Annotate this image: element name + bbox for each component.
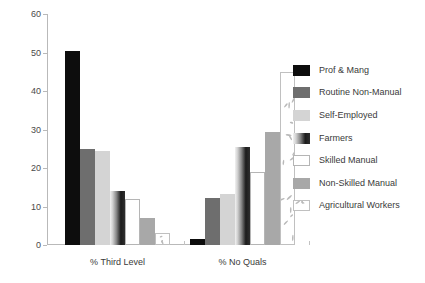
y-axis-line: [47, 14, 48, 245]
gradient-swatch: [293, 133, 310, 144]
legend-item: Routine Non-Manual: [293, 82, 402, 105]
y-tick-mark: [43, 168, 47, 169]
y-tick-label: 0: [36, 241, 41, 250]
lightgray-swatch: [293, 110, 310, 121]
y-tick-label: 30: [31, 125, 41, 134]
bar: [65, 51, 80, 245]
bar-chart: 0102030405060 % Third Level% No Quals Pr…: [0, 0, 425, 283]
black-swatch: [293, 65, 310, 76]
y-tick-label: 10: [31, 202, 41, 211]
legend-label: Agricultural Workers: [319, 201, 400, 210]
legend-label: Non-Skilled Manual: [319, 179, 397, 188]
bar: [265, 132, 280, 245]
bar: [235, 147, 250, 245]
midgray-swatch: [293, 87, 310, 98]
y-tick-label: 20: [31, 164, 41, 173]
y-tick-label: 50: [31, 48, 41, 57]
legend-item: Agricultural Workers: [293, 195, 402, 218]
y-tick-mark: [43, 53, 47, 54]
bar: [155, 233, 170, 245]
legend-item: Skilled Manual: [293, 149, 402, 172]
bar: [95, 151, 110, 245]
x-axis-category-label: % Third Level: [78, 258, 158, 267]
white-swatch: [293, 155, 310, 166]
bar: [220, 194, 235, 245]
y-tick-mark: [43, 207, 47, 208]
bar: [205, 198, 220, 245]
y-tick-mark: [43, 245, 47, 246]
chart-legend: Prof & MangRoutine Non-ManualSelf-Employ…: [293, 59, 402, 217]
bar: [190, 239, 205, 245]
legend-item: Self-Employed: [293, 104, 402, 127]
legend-item: Prof & Mang: [293, 59, 402, 82]
legend-item: Farmers: [293, 127, 402, 150]
bar: [250, 172, 265, 245]
bar-group: [190, 14, 295, 245]
legend-label: Routine Non-Manual: [319, 88, 402, 97]
gray-swatch: [293, 178, 310, 189]
legend-item: Non-Skilled Manual: [293, 172, 402, 195]
plot-area: 0102030405060: [47, 14, 285, 245]
y-tick-mark: [43, 130, 47, 131]
bar: [80, 149, 95, 245]
y-tick-label: 60: [31, 10, 41, 19]
y-tick-mark: [43, 91, 47, 92]
x-axis-separator: [184, 241, 185, 245]
x-axis-separator: [309, 241, 310, 245]
x-axis-category-label: % No Quals: [203, 258, 283, 267]
y-tick-label: 40: [31, 87, 41, 96]
bar: [125, 199, 140, 245]
bar: [140, 218, 155, 245]
y-tick-mark: [43, 14, 47, 15]
legend-label: Farmers: [319, 134, 353, 143]
legend-label: Skilled Manual: [319, 156, 378, 165]
speckle-swatch: [293, 200, 310, 211]
legend-label: Prof & Mang: [319, 66, 369, 75]
legend-label: Self-Employed: [319, 111, 378, 120]
bar: [110, 191, 125, 245]
bar-group: [65, 14, 170, 245]
